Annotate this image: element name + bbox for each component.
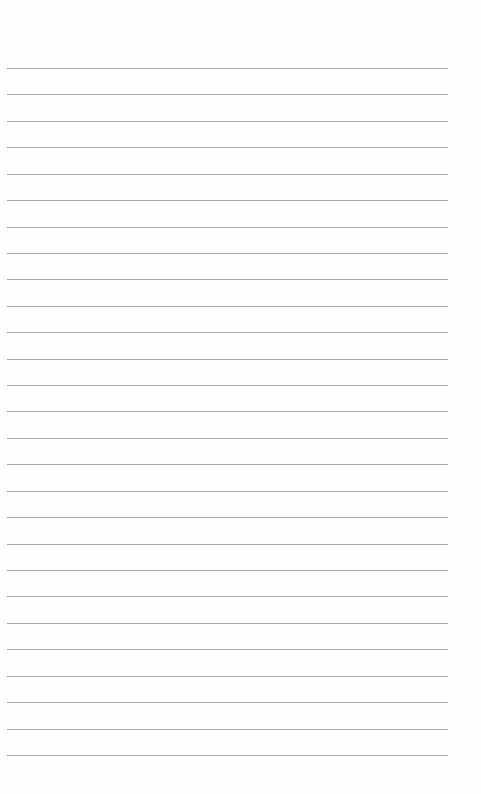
ruled-line (7, 94, 448, 95)
ruled-line (7, 147, 448, 148)
ruled-line (7, 253, 448, 254)
ruled-line (7, 649, 448, 650)
ruled-line (7, 359, 448, 360)
ruled-line (7, 121, 448, 122)
ruled-line (7, 464, 448, 465)
lined-paper-page (0, 0, 481, 794)
ruled-line (7, 702, 448, 703)
ruled-line (7, 544, 448, 545)
ruled-line (7, 332, 448, 333)
ruled-line (7, 517, 448, 518)
ruled-line (7, 279, 448, 280)
ruled-line (7, 755, 448, 756)
ruled-line (7, 200, 448, 201)
ruled-line (7, 411, 448, 412)
ruled-line (7, 68, 448, 69)
ruled-line (7, 174, 448, 175)
ruled-line (7, 729, 448, 730)
ruled-line (7, 385, 448, 386)
ruled-line (7, 306, 448, 307)
ruled-line (7, 438, 448, 439)
ruled-line (7, 596, 448, 597)
ruled-line (7, 227, 448, 228)
ruled-line (7, 570, 448, 571)
ruled-line (7, 491, 448, 492)
ruled-line (7, 676, 448, 677)
ruled-line (7, 623, 448, 624)
